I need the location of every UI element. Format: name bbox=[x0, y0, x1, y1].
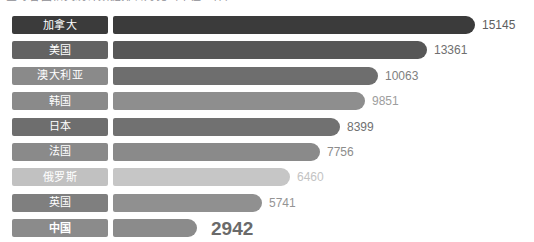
bar-row: 加拿大15145 bbox=[0, 14, 534, 39]
category-label: 加拿大 bbox=[43, 20, 78, 31]
category-label-box: 加拿大 bbox=[12, 16, 108, 34]
bar-row: 中国2942 bbox=[0, 217, 534, 242]
category-label: 美国 bbox=[49, 45, 72, 56]
bar-value-label: 9851 bbox=[372, 92, 399, 110]
bar-row: 韩国9851 bbox=[0, 90, 534, 115]
category-label-box: 美国 bbox=[12, 41, 108, 59]
category-label: 中国 bbox=[49, 223, 72, 234]
bar-chart: 全球各国相关统计数据排名对比（单位：件） 加拿大15145美国13361澳大利亚… bbox=[0, 0, 534, 242]
category-label: 俄罗斯 bbox=[43, 172, 78, 183]
category-label-box: 日本 bbox=[12, 118, 108, 136]
bar-row: 俄罗斯6460 bbox=[0, 166, 534, 191]
bar-row: 日本8399 bbox=[0, 116, 534, 141]
category-label-box: 英国 bbox=[12, 194, 108, 212]
category-label-box: 澳大利亚 bbox=[12, 67, 108, 85]
bar bbox=[113, 219, 197, 237]
category-label-box: 俄罗斯 bbox=[12, 168, 108, 186]
bar-value-label: 13361 bbox=[434, 41, 467, 59]
bar-value-label: 6460 bbox=[297, 168, 324, 186]
category-label-box: 法国 bbox=[12, 143, 108, 161]
clipped-headline: 全球各国相关统计数据排名对比（单位：件） bbox=[6, 0, 306, 3]
category-label: 澳大利亚 bbox=[37, 70, 83, 81]
category-label: 英国 bbox=[49, 197, 72, 208]
category-label: 韩国 bbox=[49, 96, 72, 107]
bar-rows: 加拿大15145美国13361澳大利亚10063韩国9851日本8399法国77… bbox=[0, 14, 534, 242]
category-label: 法国 bbox=[49, 146, 72, 157]
bar bbox=[113, 118, 340, 136]
bar-value-label: 8399 bbox=[347, 118, 374, 136]
bar bbox=[113, 143, 320, 161]
bar bbox=[113, 41, 427, 59]
bar-row: 英国5741 bbox=[0, 192, 534, 217]
bar bbox=[113, 168, 290, 186]
bar-value-label: 5741 bbox=[269, 194, 296, 212]
bar-value-label: 2942 bbox=[211, 217, 253, 239]
bar-row: 美国13361 bbox=[0, 39, 534, 64]
bar-value-label: 7756 bbox=[327, 143, 354, 161]
category-label: 日本 bbox=[49, 121, 72, 132]
category-label-box: 韩国 bbox=[12, 92, 108, 110]
bar bbox=[113, 194, 262, 212]
bar-row: 澳大利亚10063 bbox=[0, 65, 534, 90]
bar bbox=[113, 16, 475, 34]
bar bbox=[113, 92, 365, 110]
bar bbox=[113, 67, 378, 85]
bar-row: 法国7756 bbox=[0, 141, 534, 166]
category-label-box: 中国 bbox=[12, 219, 108, 237]
bar-value-label: 10063 bbox=[385, 67, 418, 85]
bar-value-label: 15145 bbox=[482, 16, 515, 34]
